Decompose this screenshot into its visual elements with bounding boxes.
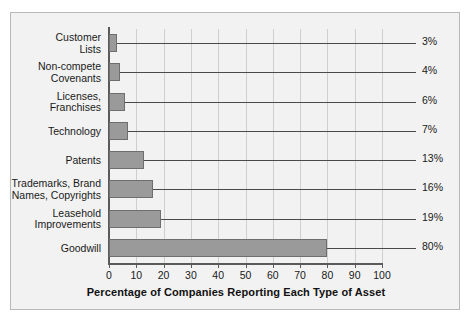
x-tick-label-30: 30 <box>176 269 206 281</box>
x-tick-label-40: 40 <box>203 269 233 281</box>
bar-row: 6% <box>109 88 382 117</box>
category-label-line: Customer <box>0 32 101 44</box>
leader-line <box>120 72 416 73</box>
bar[interactable] <box>109 122 128 140</box>
bar-value-label: 6% <box>422 94 437 106</box>
x-tick-label-60: 60 <box>258 269 288 281</box>
leader-line <box>327 248 416 249</box>
x-tick-60 <box>273 263 274 268</box>
category-label-line: Improvements <box>0 219 101 231</box>
category-label: Non-competeCovenants <box>0 61 101 84</box>
x-tick-label-10: 10 <box>121 269 151 281</box>
bar-value-label: 19% <box>422 211 443 223</box>
x-tick-label-50: 50 <box>231 269 261 281</box>
category-label: Goodwill <box>0 243 101 255</box>
x-tick-90 <box>355 263 356 268</box>
bar-row: 4% <box>109 58 382 87</box>
bar-row: 3% <box>109 29 382 58</box>
x-tick-20 <box>164 263 165 268</box>
category-label-line: Lists <box>0 44 101 56</box>
category-label: Patents <box>0 155 101 167</box>
bar[interactable] <box>109 210 161 228</box>
leader-line <box>125 102 416 103</box>
x-tick-30 <box>191 263 192 268</box>
category-label-line: Names, Copyrights <box>0 190 101 202</box>
x-tick-label-80: 80 <box>312 269 342 281</box>
x-tick-70 <box>300 263 301 268</box>
x-tick-40 <box>218 263 219 268</box>
bar-value-label: 3% <box>422 35 437 47</box>
category-label: Trademarks, BrandNames, Copyrights <box>0 178 101 201</box>
bar-row: 7% <box>109 117 382 146</box>
bar-value-label: 80% <box>422 240 443 252</box>
bar[interactable] <box>109 239 327 257</box>
bar[interactable] <box>109 34 117 52</box>
leader-line <box>144 160 416 161</box>
leader-line <box>128 131 416 132</box>
bar-row: 80% <box>109 234 382 263</box>
leader-line <box>117 43 416 44</box>
x-tick-label-20: 20 <box>149 269 179 281</box>
bar-row: 19% <box>109 205 382 234</box>
bar-value-label: 16% <box>422 181 443 193</box>
bar-value-label: 13% <box>422 152 443 164</box>
bar[interactable] <box>109 180 153 198</box>
gridline-100 <box>382 29 383 263</box>
chart-frame: 0102030405060708090100 CustomerListsNon-… <box>10 12 460 310</box>
x-tick-80 <box>327 263 328 268</box>
category-label: Technology <box>0 126 101 138</box>
y-axis-category-labels: CustomerListsNon-competeCovenantsLicense… <box>0 29 101 263</box>
x-tick-10 <box>136 263 137 268</box>
x-tick-label-0: 0 <box>94 269 124 281</box>
category-label: LeaseholdImprovements <box>0 208 101 231</box>
bar-row: 16% <box>109 175 382 204</box>
category-label-line: Patents <box>0 155 101 167</box>
x-tick-label-70: 70 <box>285 269 315 281</box>
leader-line <box>153 189 416 190</box>
bar[interactable] <box>109 63 120 81</box>
x-tick-100 <box>382 263 383 268</box>
bar[interactable] <box>109 93 125 111</box>
category-label-line: Covenants <box>0 73 101 85</box>
bar-value-label: 7% <box>422 123 437 135</box>
plot-area: 0102030405060708090100 CustomerListsNon-… <box>109 29 382 263</box>
category-label-line: Franchises <box>0 102 101 114</box>
category-label: Licenses,Franchises <box>0 91 101 114</box>
category-label: CustomerLists <box>0 32 101 55</box>
x-tick-label-100: 100 <box>367 269 397 281</box>
x-tick-50 <box>246 263 247 268</box>
category-label-line: Goodwill <box>0 243 101 255</box>
bar-row: 13% <box>109 146 382 175</box>
x-tick-label-90: 90 <box>340 269 370 281</box>
x-axis-title: Percentage of Companies Reporting Each T… <box>11 286 461 298</box>
leader-line <box>161 219 416 220</box>
category-label-line: Technology <box>0 126 101 138</box>
bar[interactable] <box>109 151 144 169</box>
x-tick-0 <box>109 263 110 268</box>
bar-value-label: 4% <box>422 64 437 76</box>
